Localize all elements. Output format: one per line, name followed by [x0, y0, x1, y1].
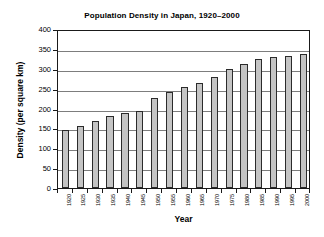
bar: [300, 54, 307, 188]
chart-title: Population Density in Japan, 1920–2000: [0, 11, 324, 20]
x-tick-mark: [221, 189, 222, 193]
x-tick-label: 1970: [215, 194, 220, 206]
y-tick-mark: [53, 50, 57, 51]
x-tick-label: 1945: [141, 194, 146, 206]
x-tick-mark: [265, 189, 266, 193]
x-tick-label: 1975: [230, 194, 235, 206]
x-tick-label: 1935: [111, 194, 116, 206]
bar: [151, 98, 158, 188]
y-tick-mark: [53, 70, 57, 71]
y-tick-mark: [53, 129, 57, 130]
x-tick-label: 1930: [96, 194, 101, 206]
y-tick-mark: [53, 90, 57, 91]
x-tick-label: 1965: [200, 194, 205, 206]
bar: [211, 77, 218, 188]
x-tick-mark: [57, 189, 58, 193]
x-tick-mark: [117, 189, 118, 193]
y-tick-label: 250: [21, 86, 51, 94]
x-tick-mark: [176, 189, 177, 193]
bar: [92, 121, 99, 188]
x-tick-mark: [87, 189, 88, 193]
bar: [196, 83, 203, 188]
x-tick-mark: [146, 189, 147, 193]
bar: [240, 64, 247, 188]
y-tick-label: 150: [21, 125, 51, 133]
y-tick-label: 100: [21, 145, 51, 153]
x-tick-mark: [131, 189, 132, 193]
x-tick-mark: [295, 189, 296, 193]
bar: [77, 126, 84, 188]
x-tick-label: 2000: [305, 194, 310, 206]
x-tick-mark: [161, 189, 162, 193]
x-tick-label: 1960: [186, 194, 191, 206]
x-tick-mark: [236, 189, 237, 193]
y-tick-label: 400: [21, 26, 51, 34]
x-tick-label: 1985: [260, 194, 265, 206]
x-tick-label: 1940: [126, 194, 131, 206]
y-tick-mark: [53, 169, 57, 170]
x-tick-label: 1920: [67, 194, 72, 206]
bar: [255, 59, 262, 188]
bar: [181, 87, 188, 188]
bar: [62, 130, 69, 188]
y-tick-label: 0: [21, 185, 51, 193]
x-tick-label: 1955: [171, 194, 176, 206]
x-tick-mark: [191, 189, 192, 193]
y-tick-mark: [53, 30, 57, 31]
y-tick-label: 300: [21, 66, 51, 74]
y-tick-label: 200: [21, 106, 51, 114]
x-axis-title: Year: [57, 214, 310, 224]
y-tick-label: 50: [21, 165, 51, 173]
bar: [106, 116, 113, 188]
x-tick-mark: [250, 189, 251, 193]
y-tick-mark: [53, 110, 57, 111]
x-tick-mark: [280, 189, 281, 193]
y-tick-label: 350: [21, 46, 51, 54]
bar: [226, 69, 233, 188]
y-tick-mark: [53, 149, 57, 150]
bar: [285, 56, 292, 188]
bar: [121, 113, 128, 188]
x-tick-label: 1980: [245, 194, 250, 206]
bar: [166, 92, 173, 188]
x-tick-mark: [309, 189, 310, 193]
chart-screenshot: Population Density in Japan, 1920–2000 D…: [0, 0, 324, 237]
bar: [270, 57, 277, 188]
x-tick-mark: [72, 189, 73, 193]
x-tick-mark: [102, 189, 103, 193]
x-tick-label: 1925: [81, 194, 86, 206]
x-tick-mark: [206, 189, 207, 193]
x-tick-label: 1995: [290, 194, 295, 206]
bar-series: [58, 31, 309, 188]
bar: [136, 111, 143, 189]
x-tick-label: 1950: [156, 194, 161, 206]
x-tick-label: 1990: [275, 194, 280, 206]
plot-area: [57, 30, 310, 189]
